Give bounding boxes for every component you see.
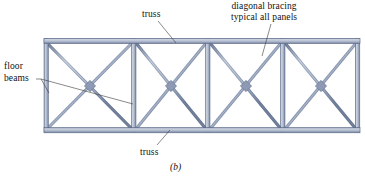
- label-truss-bottom: truss: [140, 147, 158, 158]
- figure-caption: (b): [170, 162, 181, 172]
- label-truss-top-text: truss: [142, 9, 160, 19]
- label-floor-beams: floor beams: [4, 61, 29, 84]
- label-diagonal-bracing-line1: diagonal bracing: [231, 1, 297, 12]
- label-diagonal-bracing-line2: typical all panels: [231, 12, 297, 23]
- label-truss-top: truss: [142, 9, 160, 20]
- label-floor-beams-line1: floor: [4, 61, 29, 73]
- label-diagonal-bracing: diagonal bracing typical all panels: [231, 1, 297, 22]
- figure-canvas: truss diagonal bracing typical all panel…: [0, 0, 365, 180]
- label-floor-beams-line2: beams: [4, 73, 29, 85]
- truss-diagram: [0, 0, 365, 180]
- label-truss-bottom-text: truss: [140, 147, 158, 157]
